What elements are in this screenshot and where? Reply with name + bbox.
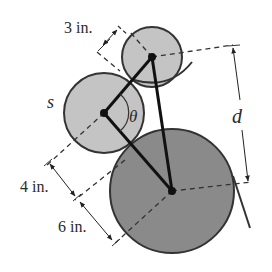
pulley-diagram: 3 in. 4 in. 6 in. s θ d [0, 0, 272, 272]
d-dim-tick-top [228, 45, 240, 46]
4in-dim-arrow [50, 164, 75, 196]
3in-dash-ext [97, 52, 120, 71]
3in-dim-tick-a [98, 39, 110, 51]
middle-radius-label: 4 in. [20, 178, 48, 195]
3in-dim-tick-b [118, 26, 128, 35]
distance-label: d [232, 105, 243, 127]
d-dim-arrow-bottom [242, 130, 248, 181]
middle-center-pivot [100, 109, 108, 117]
6in-dim-tick-b [112, 239, 120, 246]
small-center-pivot [148, 53, 156, 61]
d-dim-arrow-top [233, 48, 240, 100]
large-radius-label: 6 in. [58, 218, 86, 235]
small-radius-label: 3 in. [64, 19, 92, 36]
3in-dim-arrow [103, 30, 117, 45]
angle-label: θ [129, 107, 137, 126]
large-center-pivot [168, 187, 176, 195]
arc-length-label: s [47, 92, 54, 112]
